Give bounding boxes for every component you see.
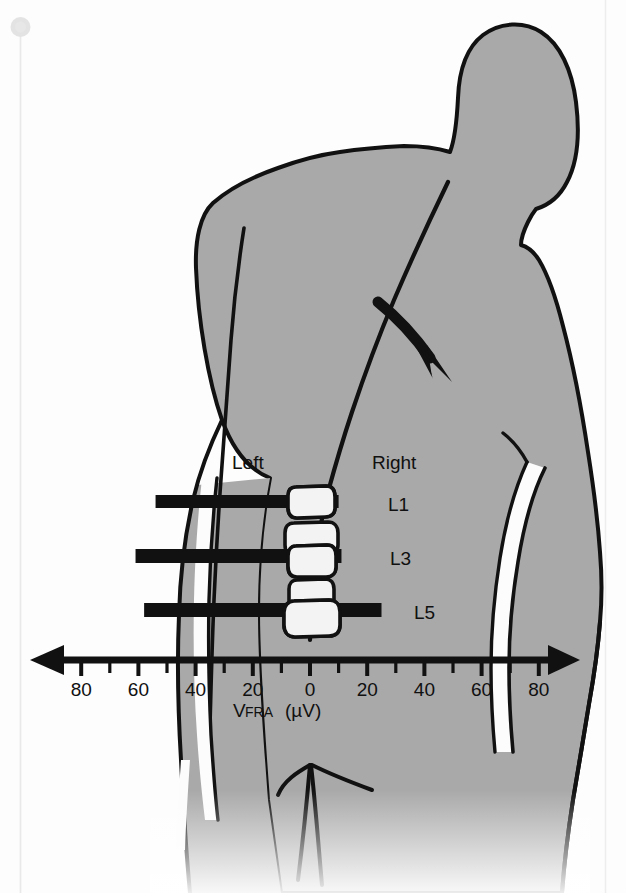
vertebra-L3-overlay [288, 545, 336, 577]
label-right: Right [372, 452, 417, 473]
vertebrae-overlay [284, 486, 340, 637]
axis-tick-label: 80 [71, 679, 92, 700]
vertebra-L5-overlay [284, 600, 340, 637]
axis-title-unit: (µV) [285, 700, 321, 721]
figure-canvas: 80604020020406080 Left Right L1 L3 L5 V … [0, 0, 626, 893]
vertebra-L1-overlay [288, 486, 335, 518]
axis-tick-labels: 80604020020406080 [71, 679, 550, 700]
axis-tick-label: 20 [242, 679, 263, 700]
figure-page: 80604020020406080 Left Right L1 L3 L5 V … [0, 0, 626, 893]
label-left: Left [232, 452, 264, 473]
axis-tick-label: 20 [357, 679, 378, 700]
segment-label-L3: L3 [390, 548, 411, 569]
axis-tick-label: 80 [528, 679, 549, 700]
axis-tick-label: 40 [414, 679, 435, 700]
bar-L5 [144, 603, 381, 617]
axis-tick-label: 60 [128, 679, 149, 700]
axis-tick-label: 40 [185, 679, 206, 700]
axis-tick-label: 0 [305, 679, 316, 700]
segment-label-L5: L5 [414, 602, 435, 623]
segment-label-L1: L1 [388, 494, 409, 515]
axis-title-subscript: FRA [245, 704, 274, 720]
axis-tick-label: 60 [471, 679, 492, 700]
bottom-scan-fade [150, 790, 590, 893]
